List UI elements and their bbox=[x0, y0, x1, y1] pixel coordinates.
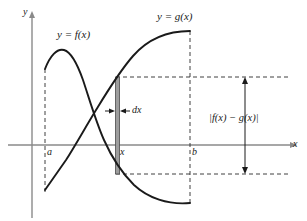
strip-height-label: |f(x) − g(x)| bbox=[209, 113, 259, 124]
height-measure-arrowhead-bottom bbox=[242, 167, 248, 174]
dx-right-arrowhead bbox=[120, 109, 126, 114]
representative-strip bbox=[116, 77, 120, 174]
strip-width-label: dx bbox=[132, 105, 141, 115]
tick-label-x: x bbox=[120, 147, 124, 157]
dx-left-arrowhead bbox=[109, 109, 115, 114]
figure-canvas bbox=[0, 0, 307, 221]
tick-label-b: b bbox=[192, 147, 197, 157]
y-axis-arrowhead bbox=[29, 11, 35, 18]
y-axis-label: y bbox=[23, 7, 27, 17]
height-measure-arrowhead-top bbox=[242, 77, 248, 84]
x-axis-label: x bbox=[293, 139, 297, 149]
tick-label-a: a bbox=[47, 147, 52, 157]
curve-label-g: y = g(x) bbox=[157, 11, 193, 22]
area-between-curves-figure: y x y = f(x) y = g(x) a x b dx |f(x) − g… bbox=[0, 0, 307, 221]
curve-label-f: y = f(x) bbox=[57, 29, 90, 40]
